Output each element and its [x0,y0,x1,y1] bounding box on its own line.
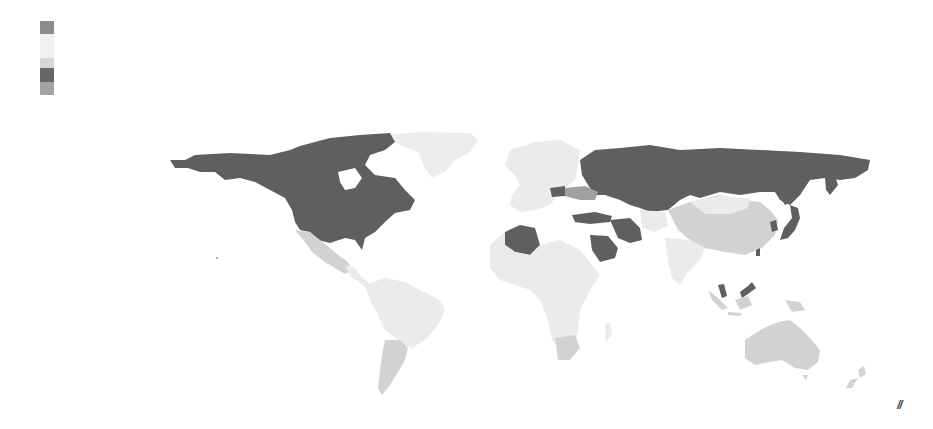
region-africa[interactable] [490,232,600,350]
region-australia[interactable] [745,320,820,370]
region-malaysia[interactable] [718,284,727,298]
region-iran[interactable] [610,218,642,243]
region-saudi-arabia[interactable] [590,235,618,262]
region-north-america[interactable] [170,133,415,250]
region-argentina[interactable] [378,340,408,395]
region-turkey[interactable] [572,212,612,224]
region-greenland[interactable] [385,132,478,178]
region-new-zealand[interactable] [858,366,866,378]
region-south-america[interactable] [365,278,445,348]
region-europe[interactable] [505,140,580,212]
region-india[interactable] [665,238,705,285]
world-map [0,0,933,429]
region-japan[interactable] [780,205,800,240]
region-south-africa[interactable] [555,335,580,360]
corner-mark: // [897,398,902,412]
